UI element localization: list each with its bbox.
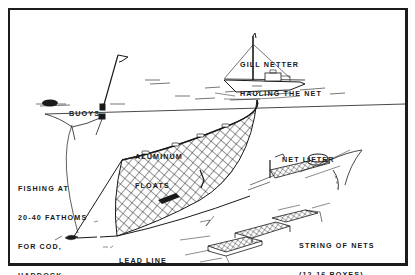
label-string-of-nets: STRING OF NETS (12-16 BOXES) 2000-4500 F… bbox=[299, 222, 389, 275]
label-gill-netter: GILL NETTER HAULING THE NET bbox=[240, 41, 322, 118]
label-fishing-depth: FISHING AT 20-40 FATHOMS FOR COD, HADDOC… bbox=[18, 165, 87, 275]
label-aluminum-floats: ALUMINUM FLOATS bbox=[135, 133, 183, 210]
gillnet-illustration: GILL NETTER HAULING THE NET BUOYS ALUMIN… bbox=[0, 0, 415, 275]
label-net-lifter: NET LIFTER bbox=[282, 136, 335, 184]
flag-buoy-icon bbox=[99, 55, 128, 119]
label-lead-line: LEAD LINE bbox=[119, 237, 167, 275]
label-buoys: BUOYS bbox=[69, 90, 100, 138]
